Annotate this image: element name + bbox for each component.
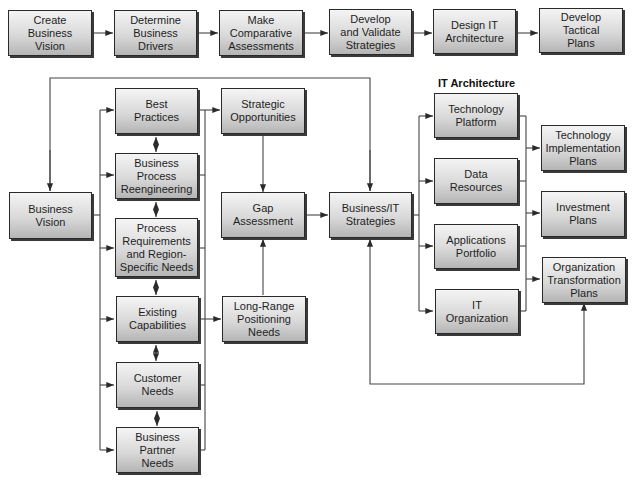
node-business-vision: Business Vision bbox=[9, 192, 92, 239]
node-existing-capabilities: Existing Capabilities bbox=[116, 296, 199, 342]
node-business-process-reengineering: Business Process Reengineering bbox=[115, 153, 198, 199]
node-applications-portfolio: Applications Portfolio bbox=[434, 224, 518, 269]
node-business-it-strategies: Business/IT Strategies bbox=[329, 192, 412, 238]
node-best-practices: Best Practices bbox=[115, 88, 198, 134]
connector-lines bbox=[0, 0, 633, 480]
node-gap-assessment: Gap Assessment bbox=[221, 192, 305, 238]
step-develop-tactical-plans: Develop Tactical Plans bbox=[539, 8, 623, 53]
node-process-requirements: Process Requirements and Region- Specifi… bbox=[115, 218, 198, 277]
step-design-it-architecture: Design IT Architecture bbox=[433, 9, 516, 54]
node-technology-implementation-plans: Technology Implementation Plans bbox=[541, 125, 625, 171]
node-business-partner-needs: Business Partner Needs bbox=[116, 427, 199, 473]
node-organization-transformation-plans: Organization Transformation Plans bbox=[542, 257, 626, 303]
step-determine-business-drivers: Determine Business Drivers bbox=[114, 10, 197, 56]
step-create-business-vision: Create Business Vision bbox=[8, 10, 92, 56]
node-data-resources: Data Resources bbox=[434, 158, 518, 204]
step-develop-validate-strategies: Develop and Validate Strategies bbox=[329, 9, 412, 55]
node-strategic-opportunities: Strategic Opportunities bbox=[221, 88, 305, 134]
node-long-range-positioning-needs: Long-Range Positioning Needs bbox=[222, 296, 306, 342]
node-technology-platform: Technology Platform bbox=[434, 93, 518, 138]
it-architecture-heading: IT Architecture bbox=[438, 77, 515, 89]
step-make-comparative-assessments: Make Comparative Assessments bbox=[219, 10, 303, 56]
node-it-organization: IT Organization bbox=[435, 289, 519, 334]
node-customer-needs: Customer Needs bbox=[116, 362, 199, 408]
it-planning-diagram: Create Business Vision Determine Busines… bbox=[0, 0, 633, 480]
node-investment-plans: Investment Plans bbox=[541, 191, 625, 237]
